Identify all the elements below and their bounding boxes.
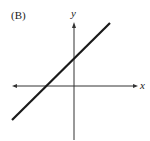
y-axis xyxy=(72,22,76,140)
y-axis-up-arrow-icon xyxy=(72,22,76,28)
x-axis-right-arrow-icon xyxy=(133,84,138,88)
coordinate-plane xyxy=(0,0,150,141)
x-axis xyxy=(12,84,138,88)
x-axis-left-arrow-icon xyxy=(12,84,17,88)
plotted-line xyxy=(12,23,110,120)
